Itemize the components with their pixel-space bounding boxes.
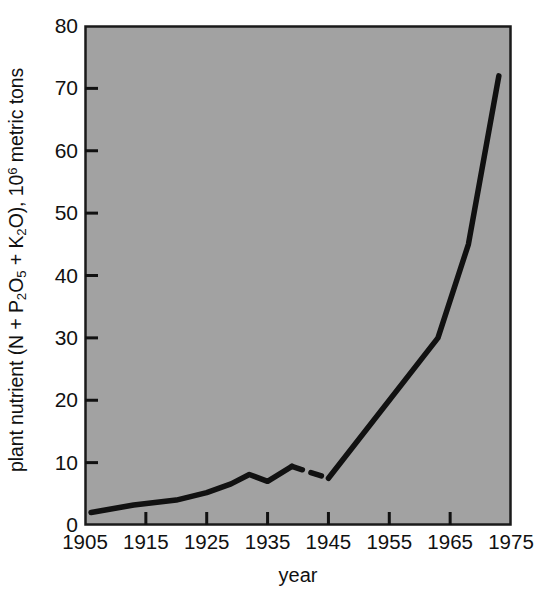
plot-area-svg [0, 0, 542, 600]
plot-background [85, 26, 511, 525]
fertilizer-consumption-chart: plant nutrient (N + P2O5 + K2O), 106 met… [0, 0, 542, 600]
